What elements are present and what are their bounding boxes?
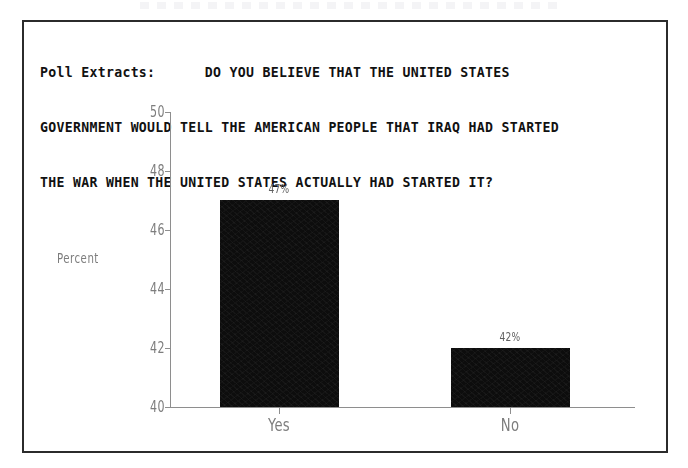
y-tick-mark-40 <box>165 407 171 408</box>
scan-artifact-strip <box>140 2 560 9</box>
bar-value-label-no: 42% <box>448 330 571 344</box>
bar-no[interactable] <box>451 348 570 407</box>
y-tick-label-46: 46 <box>137 221 165 239</box>
bar-value-label-yes: 47% <box>217 182 340 196</box>
y-tick-label-40: 40 <box>137 398 165 416</box>
bar-yes[interactable] <box>220 200 339 407</box>
y-tick-48: 48 <box>120 171 165 172</box>
bar-chart-plot-area: 40 42 44 46 48 50 Percent 47% 42% <box>24 22 670 455</box>
x-tick-label-no: No <box>450 415 570 435</box>
y-tick-50: 50 <box>120 112 165 113</box>
y-tick-46: 46 <box>120 230 165 231</box>
y-tick-mark-46 <box>165 230 171 231</box>
y-tick-label-48: 48 <box>137 162 165 180</box>
y-tick-mark-48 <box>165 171 171 172</box>
y-tick-mark-50 <box>165 112 171 113</box>
y-axis-title: Percent <box>57 250 99 266</box>
x-tick-label-yes: Yes <box>219 415 339 435</box>
y-axis-line <box>170 112 171 408</box>
poll-extract-frame: Poll Extracts: DO YOU BELIEVE THAT THE U… <box>22 20 668 453</box>
y-tick-label-42: 42 <box>137 339 165 357</box>
x-tick-mark-yes <box>279 408 280 414</box>
y-tick-42: 42 <box>120 348 165 349</box>
x-tick-mark-no <box>510 408 511 414</box>
y-tick-44: 44 <box>120 289 165 290</box>
y-tick-label-44: 44 <box>137 280 165 298</box>
y-tick-label-50: 50 <box>137 103 165 121</box>
y-tick-40: 40 <box>120 407 165 408</box>
x-axis-line <box>170 407 635 408</box>
y-tick-mark-42 <box>165 348 171 349</box>
y-tick-mark-44 <box>165 289 171 290</box>
